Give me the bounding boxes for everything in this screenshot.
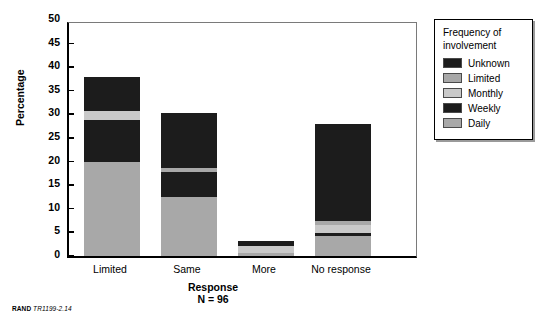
y-tick-mark <box>68 66 74 68</box>
x-label-limited: Limited <box>93 263 127 275</box>
x-axis-title: Response N = 96 <box>188 281 238 305</box>
legend-title-line-1: Frequency of <box>443 27 526 40</box>
legend: Frequency of involvement UnknownLimitedM… <box>434 19 533 140</box>
figure-source-footer: RAND TR1199-2.14 <box>12 305 72 312</box>
y-tick-label: 15 <box>48 177 60 189</box>
legend-entries: UnknownLimitedMonthlyWeeklyDaily <box>443 56 526 130</box>
legend-title: Frequency of involvement <box>443 27 526 52</box>
x-label-more: More <box>252 263 276 275</box>
y-tick-label: 20 <box>48 154 60 166</box>
y-axis-title: Percentage <box>14 69 26 126</box>
legend-swatch-daily <box>443 118 462 128</box>
y-tick-mark <box>68 113 74 115</box>
y-tick-label: 35 <box>48 83 60 95</box>
bar-no-response <box>315 124 371 256</box>
y-tick-label: 40 <box>48 59 60 71</box>
y-tick-mark <box>68 43 74 45</box>
legend-swatch-monthly <box>443 88 462 98</box>
bar-segment-weekly <box>161 172 217 197</box>
legend-swatch-weekly <box>443 103 462 113</box>
y-tick-mark <box>68 184 74 186</box>
y-tick-label: 0 <box>54 248 60 260</box>
bar-segment-unknown <box>315 124 371 221</box>
y-tick-label: 45 <box>48 36 60 48</box>
legend-label-limited: Limited <box>468 73 500 84</box>
legend-swatch-unknown <box>443 58 462 68</box>
legend-label-daily: Daily <box>468 118 490 129</box>
legend-label-unknown: Unknown <box>468 58 510 69</box>
legend-label-weekly: Weekly <box>468 103 501 114</box>
bar-segment-daily <box>161 197 217 256</box>
y-tick-mark <box>68 90 74 92</box>
y-tick-label: 50 <box>48 12 60 24</box>
x-label-no-response: No response <box>311 263 371 275</box>
bar-segment-monthly <box>238 246 294 254</box>
legend-item-unknown: Unknown <box>443 56 526 70</box>
x-label-same: Same <box>173 263 200 275</box>
y-tick-label: 30 <box>48 106 60 118</box>
y-tick-mark <box>68 137 74 139</box>
bar-segment-monthly <box>84 111 140 120</box>
bar-segment-unknown <box>161 113 217 168</box>
bar-segment-monthly <box>315 225 371 233</box>
bar-more <box>238 241 294 256</box>
y-tick-label: 5 <box>54 224 60 236</box>
x-axis-title-text: Response <box>188 281 238 293</box>
y-tick-mark <box>68 161 74 163</box>
bar-same <box>161 113 217 256</box>
legend-item-weekly: Weekly <box>443 101 526 115</box>
legend-swatch-limited <box>443 73 462 83</box>
bar-segment-daily <box>238 253 294 256</box>
y-tick-mark <box>68 255 74 257</box>
footer-code: TR1199-2.14 <box>33 305 72 312</box>
y-tick-label: 10 <box>48 201 60 213</box>
legend-label-monthly: Monthly <box>468 88 503 99</box>
legend-title-line-2: involvement <box>443 40 526 53</box>
legend-item-daily: Daily <box>443 116 526 130</box>
sample-size-note: N = 96 <box>188 293 238 305</box>
legend-item-limited: Limited <box>443 71 526 85</box>
y-tick-mark <box>68 231 74 233</box>
bar-limited <box>84 77 140 256</box>
y-tick-mark <box>68 208 74 210</box>
y-tick-label: 25 <box>48 130 60 142</box>
bar-segment-weekly <box>84 120 140 162</box>
bar-segment-daily <box>315 236 371 256</box>
bar-segment-daily <box>84 162 140 256</box>
legend-item-monthly: Monthly <box>443 86 526 100</box>
bar-segment-unknown <box>84 77 140 111</box>
plot-area: 50454035302520151050 <box>67 22 417 258</box>
footer-source: RAND <box>12 305 31 312</box>
